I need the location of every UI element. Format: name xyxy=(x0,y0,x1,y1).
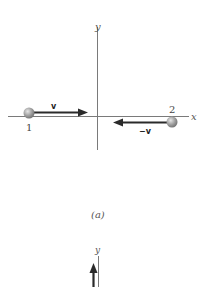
y-axis-label: y xyxy=(94,21,101,32)
arrowhead-left-icon xyxy=(113,119,123,127)
y-axis-label-b: y xyxy=(94,245,101,255)
ball-2 xyxy=(167,117,178,128)
ball-1 xyxy=(24,108,35,119)
figure-caption: (a) xyxy=(91,209,105,220)
particle-1: v 1 xyxy=(24,102,89,133)
figure-a: y x v 1 −v 2 (a) xyxy=(8,21,197,220)
figure-b-partial: y xyxy=(90,245,102,287)
x-axis-label: x xyxy=(191,111,197,122)
collision-diagram: y x v 1 −v 2 (a) y xyxy=(0,0,203,287)
arrowhead-up-icon xyxy=(90,263,98,273)
velocity-label-minus-v: −v xyxy=(139,127,152,136)
particle-2-label: 2 xyxy=(169,104,175,115)
particle-1-label: 1 xyxy=(26,122,32,133)
arrowhead-right-icon xyxy=(78,109,88,117)
velocity-label-v: v xyxy=(51,102,57,111)
particle-2: −v 2 xyxy=(113,104,178,136)
